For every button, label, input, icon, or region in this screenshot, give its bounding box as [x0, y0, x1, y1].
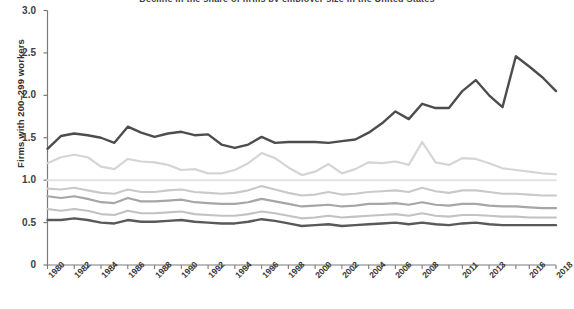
- series-line-series-4-midlight: [48, 186, 557, 195]
- line-chart: Decline in the share of firms by employe…: [0, 0, 574, 309]
- series-line-series-6-lowlight: [48, 209, 557, 218]
- series-line-series-1-top-dark: [48, 56, 557, 148]
- series-line-series-5-mid: [48, 196, 557, 208]
- series-line-series-2-light: [48, 142, 557, 175]
- series-line-series-7-bottom-dark: [48, 218, 557, 226]
